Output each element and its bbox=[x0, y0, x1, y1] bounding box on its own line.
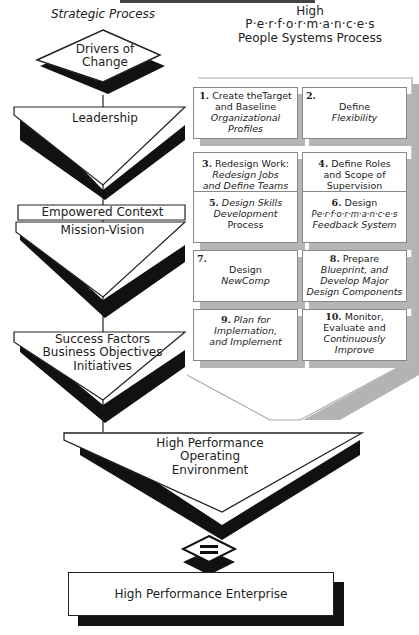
step-number: 6. bbox=[332, 197, 342, 208]
step-text: Improve bbox=[335, 344, 374, 355]
stage-empowered-context: Empowered Context bbox=[20, 206, 185, 219]
stage-line: Business Objectives bbox=[20, 346, 185, 359]
step-text: Design Components bbox=[307, 286, 403, 297]
env-line: Environment bbox=[140, 464, 280, 477]
stage-leadership: Leadership bbox=[40, 112, 170, 125]
step-number: 3. bbox=[202, 158, 212, 169]
people-systems-header: High P·e·r·f·o·r·m·a·n·c·e·s People Syst… bbox=[210, 5, 410, 45]
step-text: Development bbox=[214, 208, 278, 219]
step-number: 9. bbox=[221, 314, 231, 325]
step-7: 7. Design NewComp bbox=[193, 250, 298, 302]
step-text: Monitor, bbox=[345, 311, 384, 322]
step-text: Define Roles bbox=[331, 158, 390, 169]
result-label: High Performance Enterprise bbox=[115, 587, 288, 601]
header-line-people-systems: People Systems Process bbox=[210, 32, 410, 45]
stage-drivers-of-change: Drivers of Change bbox=[60, 43, 150, 70]
step-text: Blueprint, and bbox=[321, 264, 388, 275]
step-text: Feedback System bbox=[312, 219, 396, 230]
step-text: and Implement bbox=[209, 336, 281, 347]
step-text: Process bbox=[197, 220, 294, 231]
stage-success-factors: Success Factors Business Objectives Init… bbox=[20, 333, 185, 373]
step-number: 2. bbox=[306, 90, 316, 101]
step-text: NewComp bbox=[221, 275, 269, 286]
step-text: Plan for bbox=[234, 314, 270, 325]
step-number: 10. bbox=[325, 311, 342, 322]
step-text: Design Skills bbox=[222, 197, 282, 208]
env-line: Operating bbox=[140, 450, 280, 463]
step-number: 7. bbox=[197, 253, 207, 264]
clipped-title-bar bbox=[120, 0, 315, 3]
step-text: Continuously bbox=[324, 333, 386, 344]
step-8: 8. Prepare Blueprint, and Develop Major … bbox=[302, 250, 407, 302]
step-1: 1. Create theTarget and Baseline Organiz… bbox=[193, 87, 298, 139]
header-line-high: High bbox=[210, 5, 410, 18]
step-text: Implemation, bbox=[214, 325, 277, 336]
step-text: Pe·r·f·o·r·m·a·n·c·e·s bbox=[312, 209, 398, 219]
env-line: High Performance bbox=[140, 437, 280, 450]
step-number: 5. bbox=[209, 197, 219, 208]
stage-line: Change bbox=[60, 56, 150, 69]
stage-line: Drivers of bbox=[60, 43, 150, 56]
step-6: 6. Design Pe·r·f·o·r·m·a·n·c·e·s Feedbac… bbox=[302, 191, 407, 243]
strategic-process-header: Strategic Process bbox=[0, 8, 206, 21]
step-text: Create theTarget bbox=[212, 90, 292, 101]
step-text: Design bbox=[345, 197, 378, 208]
step-text: Organizational bbox=[211, 112, 280, 123]
step-text: and Define Teams bbox=[203, 180, 289, 191]
step-9: 9. Plan for Implemation, and Implement bbox=[193, 309, 298, 361]
step-text: Redesign Work: bbox=[215, 158, 289, 169]
high-performance-enterprise-box: High Performance Enterprise bbox=[68, 572, 334, 616]
stage-mission-vision: Mission-Vision bbox=[20, 224, 185, 237]
stage-line: Success Factors bbox=[20, 333, 185, 346]
step-text: Develop Major bbox=[320, 275, 389, 286]
operating-environment: High Performance Operating Environment bbox=[140, 437, 280, 477]
step-text: Flexibility bbox=[332, 112, 378, 123]
header-line-performances: P·e·r·f·o·r·m·a·n·c·e·s bbox=[210, 18, 410, 31]
step-number: 8. bbox=[330, 253, 340, 264]
step-text: Profiles bbox=[228, 123, 263, 134]
step-text: Redesign Jobs bbox=[212, 169, 279, 180]
stage-line: Initiatives bbox=[20, 360, 185, 373]
step-2: 2. Define Flexibility bbox=[302, 87, 407, 139]
step-number: 4. bbox=[318, 158, 328, 169]
step-10: 10. Monitor, Evaluate and Continuously I… bbox=[302, 309, 407, 361]
step-text: Prepare bbox=[343, 253, 380, 264]
step-number: 1. bbox=[199, 90, 209, 101]
step-5: 5. Design Skills Development Process bbox=[193, 191, 298, 243]
